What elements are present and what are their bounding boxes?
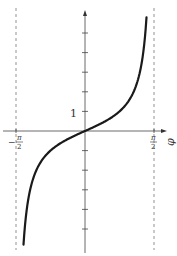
- svg-text:2: 2: [151, 143, 155, 151]
- svg-text:−: −: [8, 137, 16, 147]
- x-label-neg-half-pi: − π 2: [8, 134, 23, 151]
- y-axis-arrow-icon: [83, 10, 87, 16]
- y-label-one: 1: [70, 107, 77, 120]
- x-axis-arrow-icon: [161, 129, 167, 133]
- x-axis-label-phi: φ: [164, 138, 177, 146]
- x-label-half-pi: π 2: [150, 134, 157, 151]
- svg-text:π: π: [16, 134, 22, 142]
- tan-plot: 1 φ − π 2 π 2: [0, 0, 177, 256]
- svg-text:2: 2: [17, 143, 21, 151]
- svg-text:π: π: [150, 134, 156, 142]
